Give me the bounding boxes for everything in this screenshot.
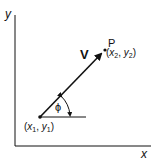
end-point-coords: (x2, y2) [106,47,136,61]
start-point-coords: (x1, y1) [24,121,54,135]
paren-close: ) [133,47,136,58]
angle-label: ϕ [55,102,61,113]
y-axis-label: y [5,9,11,20]
diagram-canvas [0,0,154,161]
start-point-dot [38,115,42,119]
paren-close: ) [51,121,54,132]
x-axis-label: x [141,149,147,160]
vector-label: V [80,49,89,60]
angle-arc [61,96,70,115]
vector-arrow [40,54,101,117]
